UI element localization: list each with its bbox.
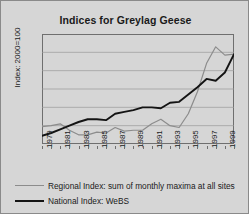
x-tick-label: 1983 [82,130,91,148]
x-tick-label: 1985 [100,130,109,148]
series-canvas [42,34,234,144]
legend-swatch-national [15,200,44,202]
legend-label-regional: Regional Index: sum of monthly maxima at… [48,181,235,191]
x-tick-mark [69,146,70,149]
x-tick-mark [115,146,116,149]
x-tick-mark [225,146,226,149]
x-tick-mark [152,146,153,149]
x-tick-mark [170,146,171,149]
x-tick-label: 1989 [136,130,145,148]
legend-label-national: National Index: WeBS [48,196,129,206]
x-tick-mark [51,146,52,149]
x-tick-mark [97,146,98,149]
x-tick-label: 1979 [45,130,54,148]
x-tick-label: 1987 [118,130,127,148]
x-tick-label: 1981 [63,130,72,148]
x-tick-mark [161,146,162,149]
x-tick-mark [79,146,80,149]
x-tick-mark [179,146,180,149]
x-tick-mark [234,146,235,149]
x-tick-label: 1999 [228,130,237,148]
x-tick-label: 1991 [155,130,164,148]
data-lines [42,47,234,136]
x-tick-mark [124,146,125,149]
x-tick-mark [207,146,208,149]
x-tick-label: 1995 [191,130,200,148]
legend-item-regional: Regional Index: sum of monthly maxima at… [15,178,240,193]
x-tick-mark [216,146,217,149]
x-tick-mark [143,146,144,149]
series-line [42,47,234,135]
chart-legend: Regional Index: sum of monthly maxima at… [15,178,240,208]
x-tick-mark [42,146,43,149]
legend-swatch-regional [15,185,44,186]
x-axis-ticks: 1979198119831985198719891991199319951997… [42,146,234,178]
x-tick-label: 1997 [210,130,219,148]
x-tick-mark [133,146,134,149]
x-tick-mark [197,146,198,149]
x-tick-mark [188,146,189,149]
chart-figure: Indices for Greylag Geese Index: 2000=10… [0,0,249,214]
x-tick-mark [60,146,61,149]
legend-item-national: National Index: WeBS [15,193,240,208]
y-axis-label: Index: 2000=100 [13,11,22,105]
x-tick-mark [88,146,89,149]
gridlines [42,52,234,125]
x-tick-label: 1993 [173,130,182,148]
chart-title: Indices for Greylag Geese [1,14,249,26]
plot-area [42,34,234,144]
x-tick-mark [106,146,107,149]
